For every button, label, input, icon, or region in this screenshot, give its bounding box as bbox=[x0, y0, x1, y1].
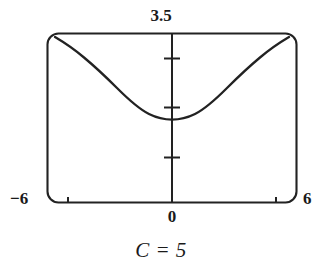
x-max-label: 6 bbox=[303, 190, 312, 207]
catenary-figure: 3.5 −6 6 0 C = 5 bbox=[0, 0, 323, 268]
x-min-label: −6 bbox=[10, 190, 28, 207]
origin-label: 0 bbox=[168, 208, 177, 225]
plot-canvas bbox=[0, 0, 323, 268]
figure-caption: C = 5 bbox=[135, 238, 187, 263]
y-max-label: 3.5 bbox=[150, 7, 171, 24]
